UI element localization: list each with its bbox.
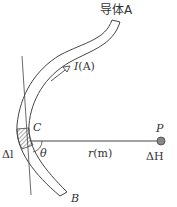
conductor-a (17, 20, 120, 196)
tangent-line (22, 56, 31, 195)
current-label: I(A) (73, 60, 95, 73)
point-c-label: C (33, 121, 42, 134)
point-p-marker (157, 137, 165, 145)
end-b-label: B (70, 192, 79, 205)
current-element-hatch (17, 128, 33, 149)
element-label: Δl (2, 148, 14, 161)
distance-label: r(m) (88, 147, 112, 160)
point-p-label: P (155, 122, 164, 135)
angle-label: θ (40, 147, 47, 160)
biot-savart-diagram: 导体A I(A) C P θ r(m) Δl ΔH B (0, 0, 177, 207)
field-label: ΔH (146, 150, 164, 163)
conductor-label: 导体A (100, 3, 133, 17)
